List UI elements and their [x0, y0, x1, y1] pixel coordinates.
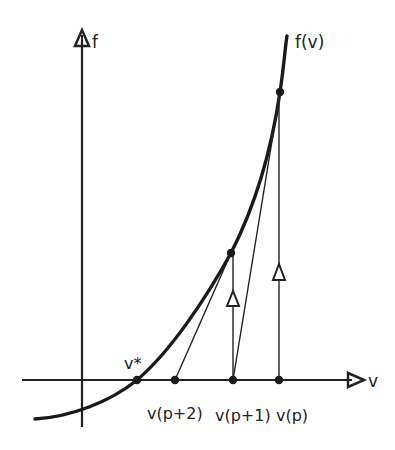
up-arrow-icon	[227, 291, 239, 306]
curve-point-p	[276, 88, 284, 96]
v-axis	[22, 373, 364, 387]
root-label: v*	[124, 354, 141, 373]
iterate-label-p1: v(p+1)	[215, 406, 271, 425]
iterate-point-p	[275, 376, 283, 384]
curve-point-p1	[227, 249, 235, 257]
v-axis-label: v	[368, 371, 378, 391]
newton-method-diagram: f v f(v) v* v(p+2) v(p+1) v(p)	[0, 0, 395, 450]
f-axis-label: f	[92, 32, 99, 52]
tangent-line-p1	[175, 253, 231, 380]
iterate-point-p2	[171, 376, 179, 384]
curve-label: f(v)	[295, 32, 324, 52]
up-arrow-icon	[273, 264, 285, 280]
function-curve	[35, 36, 287, 419]
iterate-point-p1	[229, 376, 237, 384]
root-point	[133, 376, 141, 384]
iterate-label-p: v(p)	[276, 406, 308, 425]
iterate-label-p2: v(p+2)	[147, 404, 203, 423]
f-axis	[75, 30, 89, 427]
